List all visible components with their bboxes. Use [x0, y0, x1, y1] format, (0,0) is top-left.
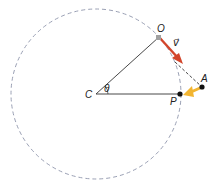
circle-diagram: C θ O v⃗ A P — [0, 0, 215, 181]
label-c: C — [85, 89, 93, 100]
label-theta: θ — [104, 83, 110, 94]
label-p: P — [170, 96, 177, 107]
label-a: A — [200, 73, 208, 84]
label-o: O — [157, 23, 165, 34]
point-p — [177, 91, 182, 96]
point-a — [199, 84, 204, 89]
start-point-o — [156, 35, 161, 40]
label-v: v⃗ — [173, 37, 180, 48]
force-arrowhead — [183, 86, 194, 97]
